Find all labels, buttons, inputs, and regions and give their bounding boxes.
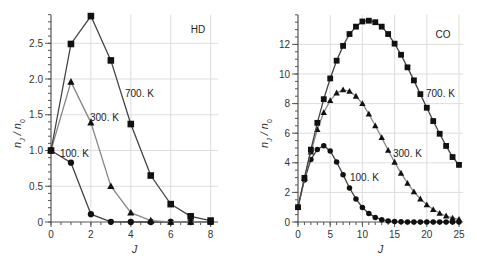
marker-circle <box>68 160 74 166</box>
x-tick-label: 25 <box>453 229 465 240</box>
x-tick-label: 8 <box>208 229 214 240</box>
marker-square <box>88 13 95 20</box>
marker-circle <box>437 219 443 225</box>
marker-square <box>340 43 346 49</box>
marker-square <box>314 120 320 126</box>
hd-panel: 0246800.51.01.52.02.5JnJ / n0HD100. K300… <box>11 13 218 255</box>
marker-square <box>405 64 411 70</box>
marker-circle <box>430 219 436 225</box>
series-label: 300. K <box>393 148 422 159</box>
marker-square <box>430 118 436 124</box>
panel-title: HD <box>191 24 205 35</box>
marker-square <box>327 76 333 82</box>
marker-square <box>450 154 456 160</box>
x-tick-label: 2 <box>88 229 94 240</box>
marker-triangle <box>340 87 346 93</box>
marker-square <box>108 57 115 64</box>
x-axis-label: J <box>377 243 384 255</box>
marker-square <box>308 147 314 153</box>
y-tick-label: 2.0 <box>29 74 43 85</box>
marker-square <box>347 31 353 37</box>
series-label: 100. K <box>60 148 89 159</box>
marker-triangle <box>372 122 378 128</box>
x-tick-label: 5 <box>327 229 333 240</box>
marker-triangle <box>385 147 391 153</box>
y-tick-label: 0.5 <box>29 181 43 192</box>
y-tick-label: 1.0 <box>29 145 43 156</box>
marker-circle <box>315 147 321 153</box>
y-axis-label: nJ / n0 <box>258 119 273 148</box>
marker-square <box>417 91 423 97</box>
marker-circle <box>108 219 114 225</box>
co-panel: 0510152025024681012JnJ / n0CO100. K300. … <box>258 15 465 255</box>
x-tick-label: 0 <box>48 229 54 240</box>
x-tick-label: 0 <box>295 229 301 240</box>
marker-square <box>443 143 449 149</box>
x-tick-label: 10 <box>357 229 369 240</box>
marker-square <box>187 213 194 220</box>
y-tick-label: 2 <box>284 187 290 198</box>
marker-circle <box>366 211 372 217</box>
y-axis-label: nJ / n0 <box>11 119 26 148</box>
marker-circle <box>373 215 379 221</box>
marker-square <box>360 19 366 25</box>
y-tick-label: 10 <box>279 69 291 80</box>
marker-triangle <box>321 109 327 115</box>
marker-square <box>392 41 398 47</box>
marker-square <box>456 162 462 168</box>
marker-triangle <box>430 206 436 212</box>
marker-circle <box>411 219 417 225</box>
marker-square <box>295 204 301 210</box>
marker-square <box>128 121 135 128</box>
marker-square <box>424 105 430 111</box>
y-tick-label: 1.5 <box>29 109 43 120</box>
figure: 0246800.51.01.52.02.5JnJ / n0HD100. K300… <box>0 0 477 262</box>
marker-circle <box>424 219 430 225</box>
marker-circle <box>405 219 411 225</box>
marker-circle <box>128 219 134 225</box>
marker-circle <box>392 219 398 225</box>
marker-square <box>385 31 391 37</box>
y-tick-label: 0 <box>284 217 290 228</box>
series-100k <box>295 143 462 225</box>
marker-triangle <box>436 210 442 216</box>
marker-circle <box>334 159 340 165</box>
marker-circle <box>379 217 385 223</box>
marker-square <box>48 147 55 154</box>
x-tick-label: 20 <box>421 229 433 240</box>
series-300k <box>295 87 462 222</box>
marker-square <box>379 24 385 30</box>
marker-circle <box>443 219 449 225</box>
marker-circle <box>321 143 327 149</box>
marker-square <box>411 77 417 83</box>
marker-circle <box>418 219 424 225</box>
marker-circle <box>340 172 346 178</box>
x-tick-label: 15 <box>389 229 401 240</box>
marker-square <box>167 201 174 208</box>
marker-square <box>207 217 214 224</box>
x-tick-label: 6 <box>168 229 174 240</box>
marker-circle <box>327 148 333 154</box>
y-tick-label: 12 <box>279 39 291 50</box>
y-tick-label: 2.5 <box>29 38 43 49</box>
marker-square <box>398 52 404 58</box>
x-axis-label: J <box>131 243 138 255</box>
marker-circle <box>398 219 404 225</box>
marker-circle <box>360 205 366 211</box>
marker-triangle <box>391 159 397 165</box>
marker-square <box>321 96 327 102</box>
y-tick-label: 8 <box>284 98 290 109</box>
series-label: 300. K <box>90 112 119 123</box>
marker-triangle <box>379 134 385 140</box>
marker-triangle <box>398 170 404 176</box>
marker-circle <box>347 185 353 191</box>
marker-square <box>372 19 378 25</box>
marker-circle <box>385 218 391 224</box>
marker-circle <box>88 211 94 217</box>
y-tick-label: 0 <box>37 217 43 228</box>
series-label: 700. K <box>125 88 154 99</box>
series-label: 700. K <box>426 88 455 99</box>
y-tick-label: 4 <box>284 157 290 168</box>
marker-square <box>353 24 359 30</box>
x-tick-label: 4 <box>128 229 134 240</box>
